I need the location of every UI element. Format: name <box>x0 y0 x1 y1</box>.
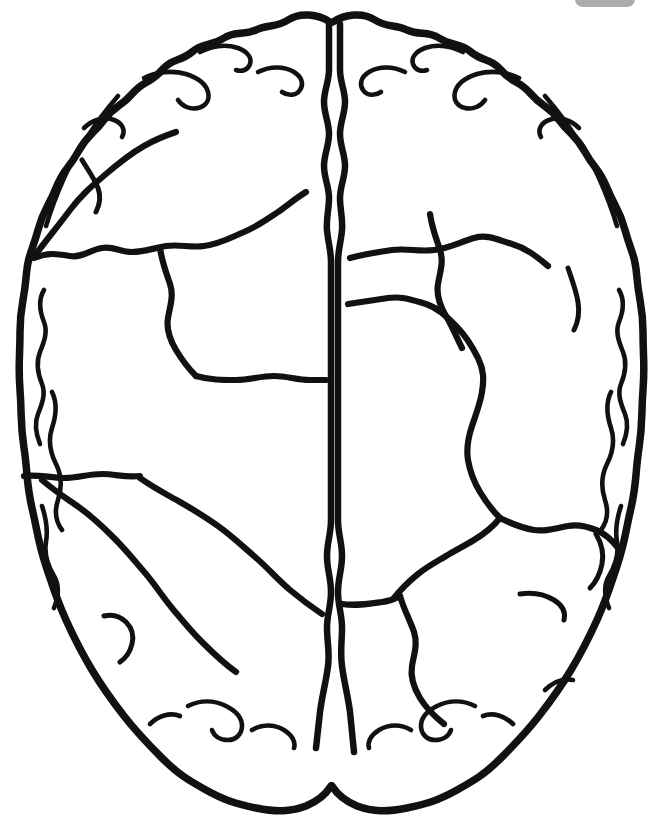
figure-root: Line drawing of a human brain seen from … <box>0 0 663 821</box>
brain-diagram: Line drawing of a human brain seen from … <box>0 0 663 821</box>
